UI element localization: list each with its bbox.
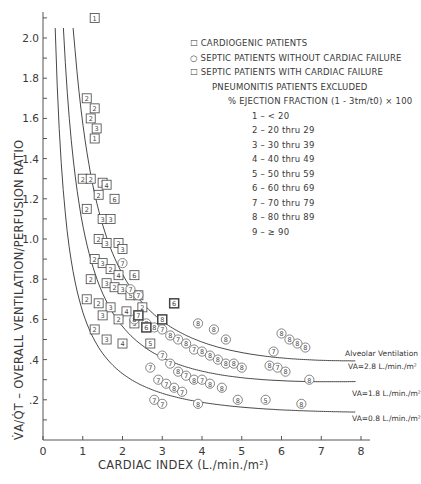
circle-marker-icon: 5	[261, 395, 270, 404]
svg-text:7: 7	[120, 260, 124, 268]
svg-text:8: 8	[220, 385, 224, 393]
circle-marker-icon: 8	[281, 367, 290, 376]
circle-marker-icon: 8	[193, 319, 202, 328]
svg-text:8: 8	[283, 368, 287, 376]
x-tick-label: 6	[278, 445, 285, 458]
circle-marker-icon: 8	[209, 325, 218, 334]
svg-text:8: 8	[152, 324, 156, 332]
svg-text:8: 8	[224, 360, 228, 368]
legend-code-item: 8 – 80 thru 89	[252, 210, 412, 225]
x-tick-label: 3	[159, 445, 166, 458]
x-tick-label: 4	[199, 445, 206, 458]
y-tick-label: 1.6	[22, 112, 39, 124]
svg-text:8: 8	[196, 320, 200, 328]
x-axis-label: CARDIAC INDEX (L./min./m²)	[98, 458, 269, 472]
svg-text:8: 8	[196, 401, 200, 409]
y-tick-label: .6	[29, 313, 39, 325]
circle-marker-icon: 7	[166, 359, 175, 368]
square-marker-icon: 2	[82, 295, 91, 304]
circle-marker-icon: 8	[237, 363, 246, 372]
legend-code-item: 4 – 40 thru 49	[252, 152, 412, 167]
circle-marker-icon: 7	[158, 399, 167, 408]
svg-text:8: 8	[268, 362, 272, 370]
svg-text:8: 8	[232, 360, 236, 368]
svg-text:7: 7	[200, 377, 204, 385]
circle-marker-icon: 7	[134, 291, 143, 300]
circle-marker-icon: 8	[193, 399, 202, 408]
svg-text:2: 2	[81, 176, 85, 184]
svg-text:8: 8	[295, 340, 299, 348]
svg-text:2: 2	[97, 192, 101, 200]
svg-text:3: 3	[105, 336, 109, 344]
svg-text:2: 2	[93, 326, 97, 334]
svg-text:8: 8	[176, 368, 180, 376]
svg-text:7: 7	[152, 397, 156, 405]
square-marker-icon: 2	[114, 315, 123, 324]
svg-text:8: 8	[240, 364, 244, 372]
svg-text:8: 8	[192, 377, 196, 385]
svg-text:1: 1	[93, 15, 97, 23]
svg-text:7: 7	[128, 286, 132, 294]
legend-code-item: 1 – < 20	[252, 109, 412, 124]
x-tick-label: 8	[358, 445, 365, 458]
alveolar-ventilation-title: Alveolar Ventilation	[345, 349, 418, 358]
svg-text:2: 2	[89, 115, 93, 123]
svg-text:6: 6	[132, 272, 136, 280]
circle-marker-icon: 7	[126, 285, 135, 294]
svg-text:8: 8	[224, 336, 228, 344]
circle-marker-icon: 7	[158, 325, 167, 334]
svg-text:7: 7	[160, 401, 164, 409]
legend-note: PNEUMONITIS PATIENTS EXCLUDED	[190, 80, 412, 95]
svg-text:8: 8	[160, 316, 164, 324]
circle-marker-icon: 8	[297, 399, 306, 408]
svg-text:4: 4	[124, 308, 128, 316]
svg-text:3: 3	[109, 304, 113, 312]
circle-marker-icon: 7	[158, 351, 167, 360]
x-tick-label: 0	[40, 445, 47, 458]
svg-text:8: 8	[287, 336, 291, 344]
square-marker-icon: 3	[102, 335, 111, 344]
square-marker-icon: 2	[94, 190, 103, 199]
circle-marker-icon: ○	[190, 53, 201, 63]
svg-text:8: 8	[168, 332, 172, 340]
legend-code-item: 6 – 60 thru 69	[252, 181, 412, 196]
svg-text:8: 8	[307, 377, 311, 385]
svg-text:7: 7	[176, 336, 180, 344]
x-tick-label: 5	[238, 445, 245, 458]
square-marker-icon: 8	[158, 315, 167, 324]
square-marker-icon: 6	[142, 323, 151, 332]
svg-text:1: 1	[93, 135, 97, 143]
square-marker-icon: 6	[110, 194, 119, 203]
svg-text:2: 2	[85, 95, 89, 103]
square-marker-icon: 4	[114, 271, 123, 280]
svg-text:2: 2	[97, 236, 101, 244]
svg-text:7: 7	[192, 346, 196, 354]
svg-text:3: 3	[101, 260, 105, 268]
square-marker-icon: 6	[130, 271, 139, 280]
svg-text:3: 3	[95, 125, 99, 133]
svg-text:4: 4	[116, 272, 120, 280]
circle-marker-icon: 8	[277, 329, 286, 338]
curve-label-va18: VA=1.8 L./min./m²	[352, 389, 421, 398]
svg-text:7: 7	[168, 360, 172, 368]
svg-text:8: 8	[200, 348, 204, 356]
legend-entry-septic-cardiac: ☐ SEPTIC PATIENTS WITH CARDIAC FAILURE	[190, 65, 412, 80]
svg-text:8: 8	[279, 330, 283, 338]
square-marker-icon: 2	[82, 204, 91, 213]
square-marker-icon: 2	[86, 114, 95, 123]
svg-text:7: 7	[164, 381, 168, 389]
square-marker-icon: 7	[134, 311, 143, 320]
svg-text:5: 5	[148, 340, 152, 348]
svg-text:2: 2	[112, 284, 116, 292]
svg-text:2: 2	[89, 276, 93, 284]
square-marker-icon: 2	[90, 104, 99, 113]
svg-text:7: 7	[275, 364, 279, 372]
legend-code-item: 7 – 70 thru 79	[252, 196, 412, 211]
svg-text:2: 2	[109, 266, 113, 274]
legend-entry-cardiogenic: ☐ CARDIOGENIC PATIENTS	[190, 36, 412, 51]
svg-text:7: 7	[271, 348, 275, 356]
svg-text:7: 7	[136, 312, 140, 320]
legend-entry-septic: ○ SEPTIC PATIENTS WITHOUT CARDIAC FAILUR…	[190, 51, 412, 66]
square-marker-icon: 1	[90, 134, 99, 143]
y-tick-label: .4	[29, 354, 39, 366]
